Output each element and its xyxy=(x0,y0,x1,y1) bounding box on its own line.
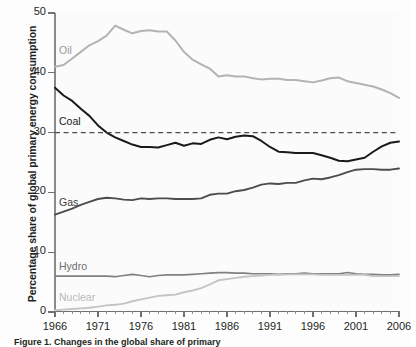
series-label-hydro: Hydro xyxy=(59,260,87,272)
series-label-oil: Oil xyxy=(59,44,72,56)
series-line-gas xyxy=(55,168,399,214)
series-group xyxy=(55,26,399,311)
series-label-nuclear: Nuclear xyxy=(59,291,95,303)
series-line-nuclear xyxy=(55,274,399,310)
series-label-gas: Gas xyxy=(59,196,78,208)
figure-caption: Figure 1. Changes in the global share of… xyxy=(14,337,410,347)
series-label-coal: Coal xyxy=(59,115,81,127)
series-line-oil xyxy=(55,26,399,98)
series-line-coal xyxy=(55,88,399,162)
